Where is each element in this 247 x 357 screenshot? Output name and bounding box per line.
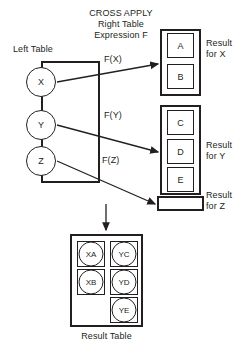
result-for-z-label: Result for Z [206, 190, 232, 212]
result-table-cell-xb-value: XB [86, 278, 97, 287]
result-table-cell-xa: XA [77, 241, 105, 267]
result-table-cell-xb-circle: XB [79, 270, 104, 295]
arrow-label-fx: F(X) [104, 54, 122, 65]
result-table-cell-yd-circle: YD [112, 270, 137, 295]
left-table-row-z: Z [26, 146, 56, 176]
left-table-row-x: X [26, 67, 56, 97]
left-table-row-y-value: Y [38, 120, 44, 130]
result-y-row-e: E [167, 167, 194, 192]
left-table-row-x-value: X [38, 77, 44, 87]
result-table-cell-xa-circle: XA [79, 242, 104, 267]
result-table-cell-yc-circle: YC [112, 242, 137, 267]
result-x-row-b: B [167, 64, 194, 89]
result-table-cell-yd-value: YD [118, 278, 129, 287]
arrow-label-fy: F(Y) [104, 110, 122, 121]
result-table-cell-yc-value: YC [118, 250, 129, 259]
arrow-label-fz: F(Z) [102, 155, 119, 166]
cross-apply-diagram: CROSS APPLY Right Table Expression F Lef… [0, 0, 247, 357]
result-table-cell-ye-circle: YE [112, 298, 137, 323]
result-group-z-box [157, 196, 204, 211]
result-for-y-label: Result for Y [206, 140, 232, 162]
result-y-row-d-value: D [177, 147, 184, 157]
result-x-row-a: A [167, 33, 194, 58]
result-table-cell-xa-value: XA [86, 250, 97, 259]
result-y-row-c-value: C [177, 118, 184, 128]
result-y-row-e-value: E [177, 175, 183, 185]
result-table-label: Result Table [70, 331, 143, 342]
result-y-row-d: D [167, 139, 194, 164]
result-for-x-label: Result for X [206, 38, 232, 60]
result-x-row-b-value: B [177, 72, 183, 82]
left-table-label: Left Table [13, 44, 53, 55]
result-table-cell-yc: YC [110, 241, 138, 267]
left-table-row-z-value: Z [38, 156, 44, 166]
result-table-cell-xb: XB [77, 269, 105, 295]
result-table-cell-ye-value: YE [119, 306, 130, 315]
result-x-row-a-value: A [177, 41, 183, 51]
result-table-cell-ye: YE [110, 297, 138, 323]
result-table-cell-yd: YD [110, 269, 138, 295]
result-y-row-c: C [167, 110, 194, 135]
left-table-row-y: Y [26, 110, 56, 140]
